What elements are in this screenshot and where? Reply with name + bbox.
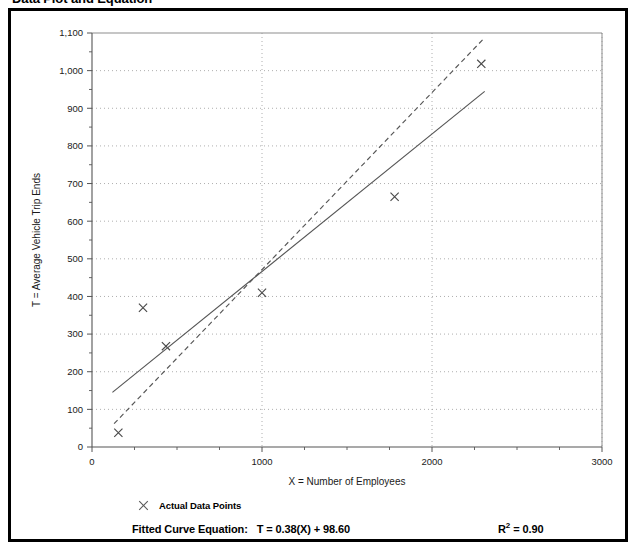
y-axis-title: T = Average Vehicle Trip Ends: [31, 173, 42, 307]
chart-legend: Actual Data Points Fitted Curve Average …: [11, 492, 625, 518]
x-axis-tick-label: 3000: [591, 456, 612, 467]
y-axis-tick-label: 200: [67, 366, 83, 377]
legend-label-actual-data-points: Actual Data Points: [159, 500, 241, 511]
y-axis-tick-label: 1,000: [59, 65, 83, 76]
data-point-marker: [477, 60, 485, 68]
x-axis-tick-label: 1000: [251, 456, 272, 467]
data-point-marker: [391, 193, 399, 201]
x-axis-tick-label: 0: [89, 456, 94, 467]
r-squared-exponent: 2: [506, 521, 510, 530]
y-axis-tick-label: 500: [67, 253, 83, 264]
figure-page: Data Plot and Equation 01002003004005006…: [0, 0, 637, 548]
legend-item-actual-data-points[interactable]: Actual Data Points: [137, 492, 241, 518]
y-axis-tick-label: 900: [67, 103, 83, 114]
y-axis-tick-label: 400: [67, 291, 83, 302]
series-line-fitted-curve: [112, 91, 484, 392]
y-axis-tick-label: 800: [67, 140, 83, 151]
equation-row: Fitted Curve Equation: T = 0.38(X) + 98.…: [11, 520, 625, 542]
x-axis-tick-label: 2000: [421, 456, 442, 467]
y-axis-tick-label: 0: [78, 441, 83, 452]
data-point-marker: [114, 429, 122, 437]
fitted-curve-equation: Fitted Curve Equation: T = 0.38(X) + 98.…: [132, 523, 350, 535]
x-marker-icon: [137, 499, 150, 512]
chart-canvas: 01002003004005006007008009001,0001,10001…: [0, 0, 637, 548]
y-axis-tick-label: 600: [67, 216, 83, 227]
r-squared-label: R: [498, 523, 506, 535]
equation-value: T = 0.38(X) + 98.60: [257, 523, 351, 535]
y-axis-tick-label: 700: [67, 178, 83, 189]
series-line-average-rate: [114, 39, 483, 423]
x-axis-title: X = Number of Employees: [289, 476, 406, 487]
data-point-marker: [139, 304, 147, 312]
y-axis-tick-label: 100: [67, 404, 83, 415]
y-axis-tick-label: 300: [67, 328, 83, 339]
equation-label: Fitted Curve Equation:: [132, 523, 248, 535]
r-squared-number: = 0.90: [513, 523, 543, 535]
r-squared-value: R2 = 0.90: [498, 523, 543, 535]
y-axis-tick-label: 1,100: [59, 27, 83, 38]
